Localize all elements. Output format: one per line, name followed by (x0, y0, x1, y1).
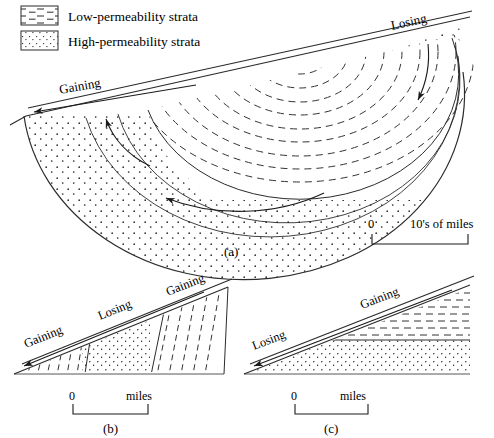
panel-b-label-gaining-right: Gaining (164, 270, 207, 298)
panel-a-caption: (a) (224, 244, 238, 259)
low-permeability-swatch (21, 6, 58, 25)
panel-b-high-permeability-zone (82, 280, 150, 380)
panel-b-caption: (b) (103, 421, 118, 436)
panel-c-label-losing: Losing (250, 327, 288, 353)
panel-b: Gaining Losing Gaining 0 miles (b) (14, 270, 232, 436)
high-permeability-swatch (21, 31, 58, 50)
panel-c: Losing Gaining 0 miles (c) (244, 276, 480, 436)
figure-svg: Low-permeability strata High-permeabilit… (0, 0, 494, 438)
panel-c-scale-unit: miles (340, 389, 366, 403)
panel-b-label-gaining-left: Gaining (22, 322, 65, 350)
legend: Low-permeability strata High-permeabilit… (21, 6, 200, 50)
panel-a-label-losing: Losing (389, 10, 428, 33)
legend-label-high-permeability: High-permeability strata (68, 34, 200, 49)
panel-b-scale-zero: 0 (69, 389, 75, 403)
panel-a-scale-unit: 10's of miles (410, 217, 473, 231)
panel-c-scale-bar: 0 miles (291, 389, 368, 414)
panel-b-scale-bar: 0 miles (69, 389, 152, 414)
panel-c-caption: (c) (324, 421, 338, 436)
panel-a-scale-zero: 0 (368, 217, 374, 231)
panel-b-scale-unit: miles (126, 389, 152, 403)
legend-item-low-permeability: Low-permeability strata (21, 6, 198, 25)
figure-root: Low-permeability strata High-permeabilit… (0, 0, 494, 438)
legend-label-low-permeability: Low-permeability strata (68, 9, 198, 24)
legend-item-high-permeability: High-permeability strata (21, 31, 200, 50)
panel-c-scale-zero: 0 (291, 389, 297, 403)
panel-b-label-losing: Losing (96, 297, 134, 323)
